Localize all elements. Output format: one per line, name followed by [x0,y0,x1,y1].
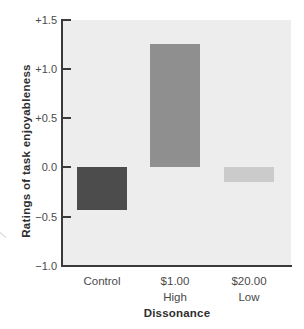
y-tick-mark [63,265,71,267]
y-axis-line [61,19,63,267]
y-tick-label: +1.5 [15,13,57,27]
scan-artifact-mark [0,231,6,237]
y-tick-mark [63,68,71,70]
bar--1-00 [150,44,200,167]
y-tick-mark [63,117,71,119]
y-axis-title: Ratings of task enjoyableness [18,51,34,251]
bar-chart-figure: +1.5+1.0+0.50.0−0.5−1.0 Control$1.00 Hig… [0,0,304,329]
x-category-label: $20.00 Low [207,274,291,305]
x-axis-line [61,265,292,267]
y-tick-label: −1.0 [15,259,57,273]
y-tick-mark [63,216,71,218]
x-axis-title: Dissonance [63,307,291,319]
x-category-label: Control [60,274,144,290]
bar-control [77,167,127,209]
bar--20-00 [224,167,274,182]
x-category-label: $1.00 High [133,274,217,305]
y-tick-mark [63,19,71,21]
y-tick-mark [63,166,71,168]
